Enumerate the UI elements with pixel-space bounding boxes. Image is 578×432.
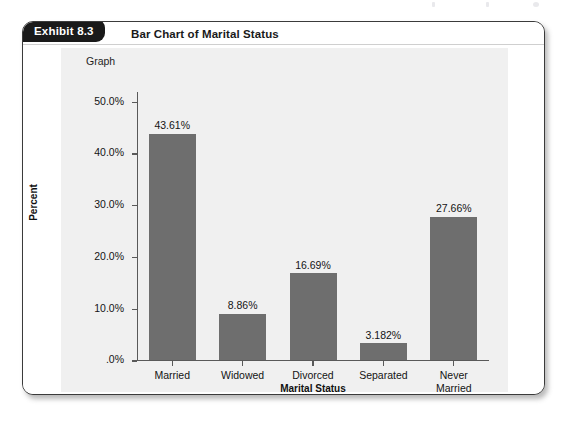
y-axis-title: Percent bbox=[28, 172, 39, 234]
y-axis-tick: 50.0% bbox=[132, 102, 137, 103]
x-axis-category-label: Divorced bbox=[292, 369, 333, 382]
exhibit-number-tab: Exhibit 8.3 bbox=[22, 21, 105, 42]
chart-title: Graph bbox=[86, 55, 115, 67]
x-axis-category-label: Married bbox=[154, 369, 190, 382]
y-axis-tick-label: 30.0% bbox=[94, 198, 124, 210]
y-axis-tick: 40.0% bbox=[132, 153, 137, 154]
bar bbox=[219, 314, 266, 360]
bar bbox=[360, 343, 407, 359]
y-axis-tick: 20.0% bbox=[132, 257, 137, 258]
y-axis-tick: 10.0% bbox=[132, 309, 137, 310]
x-axis-tick bbox=[172, 361, 173, 366]
exhibit-header: Exhibit 8.3 Bar Chart of Marital Status bbox=[23, 22, 544, 45]
bar bbox=[149, 134, 196, 360]
y-axis-tick: .0% bbox=[132, 360, 137, 361]
bar-value-label: 8.86% bbox=[228, 299, 258, 311]
y-axis-tick-label: 50.0% bbox=[94, 95, 124, 107]
x-axis-tick bbox=[453, 361, 454, 366]
x-axis-tick bbox=[312, 361, 313, 366]
plot-area: .0%10.0%20.0%30.0%40.0%50.0%43.61%Marrie… bbox=[137, 92, 489, 361]
bar-value-label: 16.69% bbox=[295, 259, 331, 271]
y-axis-tick-label: .0% bbox=[106, 353, 124, 365]
x-axis-tick bbox=[383, 361, 384, 366]
bar-value-label: 27.66% bbox=[436, 202, 472, 214]
y-axis-line bbox=[137, 92, 138, 361]
x-axis-category-label: Separated bbox=[359, 369, 407, 382]
x-axis-title: Marital Status bbox=[137, 383, 489, 394]
bar bbox=[290, 273, 337, 359]
page-scan-artifacts bbox=[0, 0, 578, 16]
y-axis-tick: 30.0% bbox=[132, 205, 137, 206]
y-axis-tick-label: 40.0% bbox=[94, 146, 124, 158]
x-axis-category-label: Widowed bbox=[221, 369, 264, 382]
exhibit-title: Bar Chart of Marital Status bbox=[131, 22, 279, 45]
bar bbox=[430, 217, 477, 360]
x-axis-tick bbox=[242, 361, 243, 366]
bar-value-label: 43.61% bbox=[154, 119, 190, 131]
exhibit-card: Exhibit 8.3 Bar Chart of Marital Status … bbox=[22, 21, 545, 395]
bar-chart: Graph Percent .0%10.0%20.0%30.0%40.0%50.… bbox=[23, 45, 545, 394]
y-axis-tick-label: 20.0% bbox=[94, 250, 124, 262]
y-axis-tick-label: 10.0% bbox=[94, 302, 124, 314]
bar-value-label: 3.182% bbox=[366, 329, 402, 341]
